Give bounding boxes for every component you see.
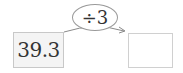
answer-box[interactable] xyxy=(128,33,173,68)
input-value-box: 39.3 xyxy=(13,32,64,68)
input-value: 39.3 xyxy=(17,38,60,62)
operation-label: ÷3 xyxy=(82,7,109,28)
operation-bubble: ÷3 xyxy=(72,4,118,31)
